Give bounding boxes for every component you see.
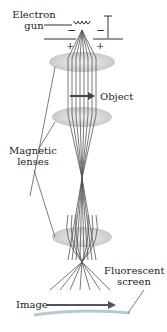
electron-gun-line2: gun	[10, 20, 58, 31]
fluorescent-screen-label: Fluorescent screen	[104, 265, 164, 287]
magnetic-lens-3	[52, 227, 112, 247]
minus-right: −	[96, 24, 105, 37]
magnetic-lenses-line1: Magnetic	[8, 145, 58, 156]
object-arrow-icon	[70, 92, 95, 100]
magnetic-lens-2	[52, 107, 112, 127]
magnetic-lenses-label: Magnetic lenses	[8, 145, 58, 167]
image-arrow-icon	[47, 301, 116, 309]
electron-gun-label: Electron gun	[10, 9, 58, 31]
plus-left: +	[66, 40, 74, 51]
electron-gun-line1: Electron	[10, 9, 58, 20]
image-label: Image	[16, 299, 48, 310]
magnetic-lens-1	[49, 52, 115, 72]
fluorescent-screen-line2: screen	[104, 276, 164, 287]
minus-left: −	[67, 24, 76, 37]
magnetic-lenses-line2: lenses	[8, 156, 58, 167]
electron-gun-icon	[74, 21, 90, 24]
object-label: Object	[100, 91, 133, 102]
fluorescent-screen-line1: Fluorescent	[104, 265, 164, 276]
fluorescent-screen	[34, 311, 130, 315]
electron-microscope-diagram: − − + + Electron gun Object Magnetic len…	[0, 0, 167, 332]
plus-right: +	[96, 40, 104, 51]
